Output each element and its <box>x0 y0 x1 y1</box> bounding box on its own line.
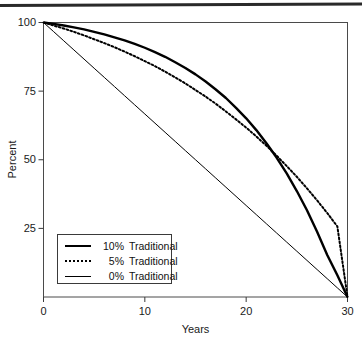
legend-item-0-percent: 0% Traditional <box>58 269 173 283</box>
legend-label-2: 0% Traditional <box>97 271 178 282</box>
chart-legend: 10% Traditional 5% Traditional 0% Tradit… <box>57 234 172 284</box>
legend-pct-2: 0% <box>97 271 124 282</box>
legend-label-0: 10% Traditional <box>97 241 178 252</box>
legend-name-0: Traditional <box>129 241 178 252</box>
y-axis-title: Percent <box>7 129 18 189</box>
y-tick-label-100: 100 <box>8 17 36 28</box>
legend-item-5-percent: 5% Traditional <box>58 254 173 268</box>
legend-item-10-percent: 10% Traditional <box>58 239 173 253</box>
x-tick-label-20: 20 <box>231 306 261 317</box>
x-tick-label-30: 30 <box>333 306 362 317</box>
legend-swatch-thin-solid-icon <box>65 270 91 282</box>
legend-swatch-dotted-icon <box>65 255 91 267</box>
y-tick-label-25: 25 <box>8 223 36 234</box>
x-tick-marks <box>44 297 348 302</box>
x-axis-title: Years <box>166 324 226 335</box>
legend-name-2: Traditional <box>129 271 178 282</box>
x-tick-label-0: 0 <box>29 306 59 317</box>
y-tick-label-75: 75 <box>8 86 36 97</box>
legend-pct-0: 10% <box>97 241 124 252</box>
legend-name-1: Traditional <box>129 256 178 267</box>
legend-label-1: 5% Traditional <box>97 256 178 267</box>
legend-swatch-thick-solid-icon <box>65 240 91 252</box>
legend-pct-1: 5% <box>97 256 124 267</box>
figure-canvas: 100 75 50 25 0 10 20 30 Percent Years 10… <box>0 0 362 337</box>
x-tick-label-10: 10 <box>130 306 160 317</box>
chart-plot-area <box>0 0 362 337</box>
y-tick-marks <box>39 23 44 229</box>
